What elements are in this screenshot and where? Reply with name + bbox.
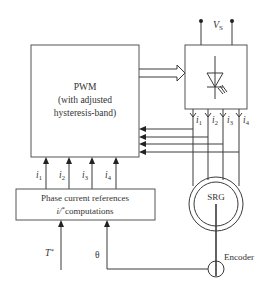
torque-reference-input: T* [45, 220, 64, 270]
reference-i3-label: i3 [82, 170, 88, 181]
angle-feedback: θ [95, 220, 208, 269]
current-feedback-lines [139, 126, 239, 155]
pwm-block: PWM (with adjusted hysteresis-band) [31, 45, 139, 157]
encoder: Encoder [208, 252, 254, 277]
reference-block-subtitle: i/*computations [56, 205, 114, 216]
reference-i2-label: i2 [59, 170, 65, 181]
measured-i4-label: i4 [243, 115, 250, 126]
reference-block-title: Phase current references [41, 193, 129, 203]
gate-signal-arrow [139, 65, 185, 81]
srg-control-diagram: PWM (with adjusted hysteresis-band) VS [0, 0, 274, 289]
pwm-subtitle-1: (with adjusted [58, 95, 112, 106]
reference-computation-block: Phase current references i/*computations [16, 189, 155, 220]
angle-label: θ [95, 250, 100, 260]
measured-i3-label: i3 [227, 115, 233, 126]
measured-i2-label: i2 [212, 115, 218, 126]
converter-block: VS [185, 19, 247, 109]
encoder-label: Encoder [224, 252, 254, 262]
supply-voltage-label: VS [213, 19, 223, 32]
pwm-subtitle-2: hysteresis-band) [54, 108, 116, 119]
reference-current-arrows: i1 i2 i3 i4 [36, 157, 119, 189]
reference-i4-label: i4 [105, 170, 112, 181]
torque-reference-label: T* [45, 247, 54, 258]
pwm-title: PWM [74, 82, 97, 92]
measured-i1-label: i1 [196, 115, 202, 126]
srg-label: SRG [207, 192, 225, 202]
reference-i1-label: i1 [36, 170, 42, 181]
